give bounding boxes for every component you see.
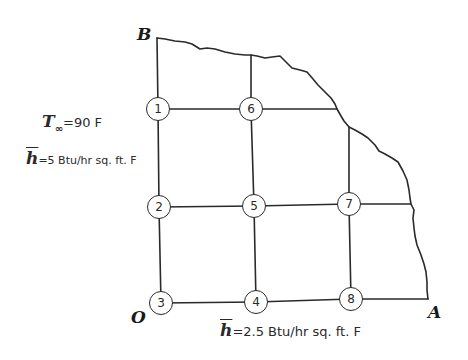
- node-8: 8: [339, 287, 363, 311]
- nodal-network-diagram: B O A 1 2 3 4 5 6 7 8 T∞=90 F h=5 Btu/hr…: [0, 0, 468, 360]
- corner-label-b: B: [137, 26, 151, 43]
- h-bar-symbol: h: [220, 320, 232, 340]
- h-bar-symbol: h: [26, 148, 38, 168]
- grid-lines: [0, 0, 468, 360]
- left-h-value: =5 Btu/hr sq. ft. F: [38, 154, 136, 167]
- node-5: 5: [242, 194, 266, 218]
- bottom-convection-coefficient-label: h=2.5 Btu/hr sq. ft. F: [220, 322, 361, 339]
- node-4: 4: [244, 290, 268, 314]
- ambient-temperature-value: =90 F: [63, 115, 102, 130]
- left-convection-coefficient-label: h=5 Btu/hr sq. ft. F: [26, 150, 137, 167]
- row-line-middle: [159, 204, 411, 207]
- infinity-subscript: ∞: [55, 123, 63, 134]
- node-7: 7: [337, 192, 361, 216]
- node-2: 2: [147, 195, 171, 219]
- bottom-h-value: =2.5 Btu/hr sq. ft. F: [232, 324, 361, 339]
- column-line-middle: [251, 55, 256, 302]
- node-3: 3: [149, 291, 173, 315]
- corner-label-o: O: [131, 309, 146, 326]
- bottom-edge-line: [161, 299, 428, 303]
- ambient-temperature-label: T∞=90 F: [42, 113, 102, 130]
- left-edge-line: [157, 38, 161, 303]
- node-1: 1: [146, 97, 170, 121]
- corner-label-a: A: [428, 304, 441, 321]
- t-symbol: T: [42, 111, 55, 131]
- node-6: 6: [239, 97, 263, 121]
- irregular-boundary-curve: [157, 38, 428, 299]
